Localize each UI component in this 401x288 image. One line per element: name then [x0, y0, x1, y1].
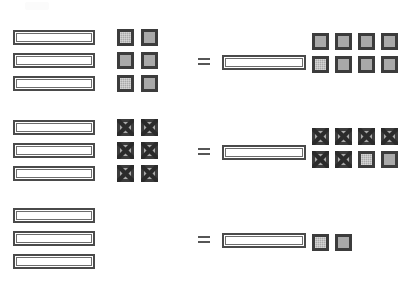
cross-out-icon [312, 151, 329, 168]
cross-out-icon [358, 128, 375, 145]
crossed-out-unit-cube [335, 128, 352, 145]
crossed-out-unit-cube [141, 119, 158, 136]
crossed-out-unit-cube [141, 165, 158, 182]
crossed-out-unit-cube [358, 128, 375, 145]
crossed-out-unit-cube [117, 165, 134, 182]
ten-rod [13, 254, 95, 269]
crossed-out-unit-cube [312, 128, 329, 145]
unit-cube [312, 234, 329, 251]
problem-row-3 [0, 0, 401, 88]
unit-cube [381, 151, 398, 168]
cross-out-icon [117, 142, 134, 159]
ten-rod [13, 166, 95, 181]
unit-cube [335, 234, 352, 251]
ten-rod [13, 120, 95, 135]
cross-out-icon [117, 119, 134, 136]
crossed-out-unit-cube [381, 128, 398, 145]
crossed-out-unit-cube [335, 151, 352, 168]
cross-out-icon [335, 128, 352, 145]
cross-out-icon [381, 128, 398, 145]
crossed-out-unit-cube [117, 142, 134, 159]
cross-out-icon [312, 128, 329, 145]
cross-out-icon [141, 165, 158, 182]
cross-out-icon [117, 165, 134, 182]
worksheet-canvas [0, 0, 401, 288]
cross-out-icon [141, 142, 158, 159]
ten-rod [13, 208, 95, 223]
ten-rod [13, 143, 95, 158]
equals-sign [198, 148, 210, 156]
crossed-out-unit-cube [312, 151, 329, 168]
crossed-out-unit-cube [141, 142, 158, 159]
cross-out-icon [141, 119, 158, 136]
equals-sign [198, 236, 210, 244]
ten-rod [222, 145, 306, 160]
cross-out-icon [335, 151, 352, 168]
crossed-out-unit-cube [117, 119, 134, 136]
unit-cube [358, 151, 375, 168]
ten-rod [13, 231, 95, 246]
ten-rod [222, 233, 306, 248]
